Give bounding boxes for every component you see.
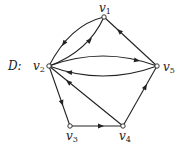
edge-v5-v2 (49, 66, 157, 76)
node-label-v5: v5 (163, 60, 175, 75)
node-label-v3: v3 (66, 129, 78, 144)
node-v3 (68, 124, 72, 128)
node-label-v1: v1 (99, 1, 111, 16)
node-label-v4: v4 (119, 129, 131, 144)
node-label-v2: v2 (33, 59, 45, 74)
node-v4 (121, 124, 125, 128)
node-v2 (47, 64, 51, 68)
arrow-icon (142, 83, 149, 91)
arrow-icon (98, 124, 104, 129)
digraph-d: D: (0, 0, 183, 148)
nodes (47, 15, 159, 128)
arrow-icon (86, 36, 94, 44)
arrow-icon (66, 70, 72, 75)
node-v5 (155, 64, 159, 68)
edges (49, 17, 157, 128)
edge-v4-v5 (123, 66, 157, 126)
arrow-icon (59, 100, 65, 107)
edge-v2-v5 (49, 56, 157, 66)
graph-name-label: D: (7, 59, 22, 73)
